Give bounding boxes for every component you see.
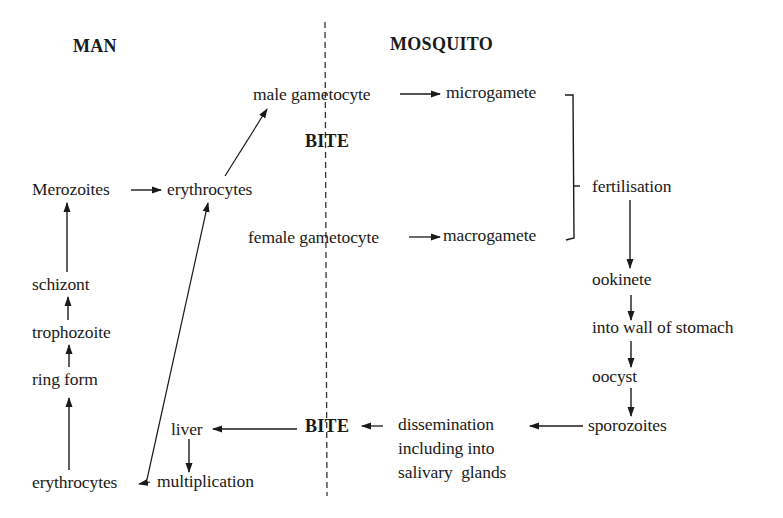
- ookinete-label: ookinete: [592, 269, 651, 289]
- dissemination-label: dissemination including into salivary gl…: [398, 412, 506, 484]
- male-gametocyte-label: male gametocyte: [253, 84, 371, 104]
- arrow-multiplication-to-erythrocytes: [139, 482, 150, 484]
- macrogamete-label: macrogamete: [443, 225, 536, 245]
- dissemination-line-3: salivary glands: [398, 460, 506, 484]
- dissemination-line-2: including into: [398, 436, 506, 460]
- fertilisation-label: fertilisation: [592, 176, 671, 196]
- schizont-label: schizont: [32, 274, 90, 294]
- erythrocytes-bottom-label: erythrocytes: [32, 472, 117, 492]
- dissemination-line-1: dissemination: [398, 412, 506, 436]
- diagram-connectors: [0, 0, 783, 518]
- multiplication-label: multiplication: [157, 471, 254, 491]
- merozoites-label: Merozoites: [32, 179, 110, 199]
- oocyst-label: oocyst: [592, 366, 637, 386]
- sporozoites-label: sporozoites: [588, 415, 667, 435]
- into-wall-of-stomach-label: into wall of stomach: [592, 317, 733, 337]
- fertilisation-bracket: [565, 95, 574, 240]
- bite-lower-label: BITE: [305, 416, 349, 436]
- arrow-erythro-bottom-to-top: [146, 203, 208, 484]
- erythrocytes-top-label: erythrocytes: [167, 179, 252, 199]
- man-header: MAN: [73, 36, 117, 56]
- bite-upper-label: BITE: [305, 131, 349, 151]
- trophozoite-label: trophozoite: [32, 322, 111, 342]
- microgamete-label: microgamete: [446, 82, 536, 102]
- ring-form-label: ring form: [32, 369, 98, 389]
- liver-label: liver: [171, 419, 203, 439]
- female-gametocyte-label: female gametocyte: [248, 227, 379, 247]
- mosquito-header: MOSQUITO: [390, 34, 493, 54]
- arrow-erythro-to-male: [225, 109, 267, 176]
